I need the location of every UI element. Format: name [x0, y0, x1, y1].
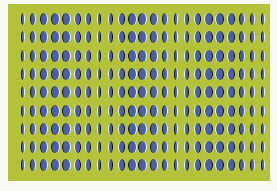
ellipse — [250, 68, 255, 80]
ellipse — [162, 50, 168, 62]
ellipse — [30, 141, 36, 153]
ellipse — [250, 123, 255, 135]
ellipse — [227, 68, 235, 80]
ellipse — [21, 50, 25, 62]
ellipse — [215, 13, 224, 25]
ellipse — [85, 13, 91, 25]
ellipse — [40, 68, 48, 80]
ellipse — [74, 31, 81, 43]
ellipse — [74, 86, 81, 98]
ellipse — [85, 105, 91, 117]
ellipse — [184, 105, 189, 117]
ellipse — [21, 68, 25, 80]
ellipse — [118, 13, 125, 25]
ellipse — [227, 141, 235, 153]
ellipse — [118, 31, 125, 43]
ellipse — [30, 123, 36, 135]
ellipse — [239, 31, 245, 43]
ellipse — [30, 68, 36, 80]
ellipse — [74, 50, 81, 62]
ellipse — [215, 141, 224, 153]
ellipse — [108, 159, 113, 171]
ellipse — [194, 105, 201, 117]
ellipse — [215, 50, 224, 62]
ellipse — [204, 159, 213, 171]
ellipse — [85, 50, 91, 62]
ellipse — [108, 50, 113, 62]
ellipse — [184, 50, 189, 62]
ellipse — [128, 105, 137, 117]
ellipse — [51, 13, 60, 25]
ellipse — [97, 50, 101, 62]
ellipse — [174, 13, 178, 25]
ellipse — [184, 123, 189, 135]
ellipse — [97, 105, 101, 117]
ellipse — [118, 159, 125, 171]
ellipse — [128, 50, 137, 62]
ellipse — [227, 86, 235, 98]
ellipse — [162, 31, 168, 43]
ellipse — [85, 31, 91, 43]
ellipse — [118, 68, 125, 80]
ellipse — [62, 68, 71, 80]
ellipse — [184, 141, 189, 153]
ellipse — [40, 105, 48, 117]
ellipse — [97, 13, 101, 25]
ellipse — [138, 159, 147, 171]
ellipse — [138, 50, 147, 62]
ellipse — [30, 31, 36, 43]
ellipse — [250, 141, 255, 153]
ellipse — [138, 123, 147, 135]
ellipse — [74, 68, 81, 80]
ellipse — [108, 86, 113, 98]
ellipse — [174, 50, 178, 62]
ellipse — [85, 68, 91, 80]
ellipse — [30, 13, 36, 25]
ellipse — [194, 13, 201, 25]
ellipse — [138, 141, 147, 153]
ellipse — [150, 105, 158, 117]
ellipse — [194, 31, 201, 43]
ellipse — [250, 105, 255, 117]
ellipse — [239, 105, 245, 117]
ellipse — [215, 123, 224, 135]
ellipse — [62, 86, 71, 98]
ellipse — [162, 141, 168, 153]
ellipse — [239, 123, 245, 135]
ellipse — [62, 13, 71, 25]
ellipse — [118, 123, 125, 135]
ellipse — [250, 13, 255, 25]
ellipse — [261, 68, 265, 80]
ellipse — [128, 159, 137, 171]
ellipse — [150, 13, 158, 25]
ellipse — [62, 31, 71, 43]
ellipse — [150, 141, 158, 153]
ellipse — [261, 123, 265, 135]
ellipse — [128, 13, 137, 25]
ellipse — [204, 86, 213, 98]
ellipse — [62, 50, 71, 62]
ellipse — [138, 105, 147, 117]
ellipse — [184, 31, 189, 43]
ellipse — [261, 50, 265, 62]
ellipse — [239, 86, 245, 98]
illusion-background — [8, 4, 270, 181]
ellipse — [85, 86, 91, 98]
ellipse — [204, 105, 213, 117]
ellipse — [40, 50, 48, 62]
ellipse — [227, 105, 235, 117]
ellipse — [215, 68, 224, 80]
ellipse — [150, 86, 158, 98]
ellipse — [261, 141, 265, 153]
ellipse — [184, 13, 189, 25]
ellipse — [108, 105, 113, 117]
ellipse — [21, 105, 25, 117]
ellipse — [261, 105, 265, 117]
ellipse — [85, 141, 91, 153]
ellipse — [150, 50, 158, 62]
ellipse — [21, 141, 25, 153]
ellipse — [250, 50, 255, 62]
ellipse — [204, 123, 213, 135]
ellipse — [204, 50, 213, 62]
ellipse — [118, 86, 125, 98]
